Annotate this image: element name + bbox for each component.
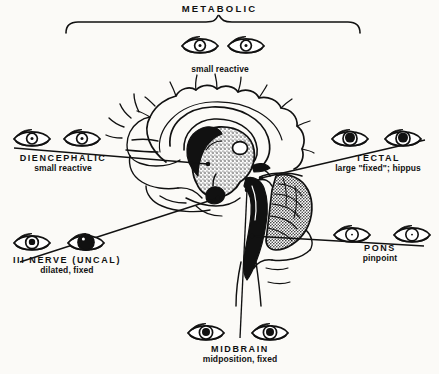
eye-pair-midbrain (188, 324, 288, 340)
label-tectal: TECTAL large "fixed"; hippus (317, 153, 439, 174)
label-diencephalic-desc: small reactive (0, 164, 126, 174)
eye-icon (14, 234, 50, 250)
eye-pair-pons (334, 226, 430, 242)
eye-pair-metabolic (182, 37, 264, 53)
label-third-nerve-desc: dilated, fixed (0, 266, 134, 276)
label-pons-desc: pinpoint (330, 254, 430, 264)
eye-icon (64, 130, 100, 146)
sagittal-brain-section (106, 74, 314, 306)
label-pons: PONS pinpoint (330, 243, 430, 264)
label-midbrain-name: MIDBRAIN (160, 344, 320, 354)
eye-icon (332, 130, 368, 146)
leader-line-third-nerve (20, 198, 218, 262)
label-metabolic: small reactive (170, 64, 270, 75)
eye-icon (14, 130, 50, 146)
eye-icon (334, 226, 370, 242)
figure-title: METABOLIC (0, 3, 439, 14)
label-midbrain: MIDBRAIN midposition, fixed (160, 344, 320, 365)
label-tectal-desc: large "fixed"; hippus (317, 164, 439, 174)
eye-pair-third-nerve (14, 234, 104, 251)
eye-pair-diencephalic (14, 130, 100, 146)
label-diencephalic-name: DIENCEPHALIC (0, 153, 126, 163)
label-third-nerve-name: III NERVE (UNCAL) (0, 255, 134, 265)
label-pons-name: PONS (330, 243, 430, 253)
eye-icon (182, 37, 218, 53)
eye-icon (385, 130, 421, 146)
label-midbrain-desc: midposition, fixed (160, 355, 320, 365)
brain-illustration (0, 0, 439, 374)
label-diencephalic: DIENCEPHALIC small reactive (0, 153, 126, 174)
eye-icon (394, 226, 430, 242)
label-metabolic-desc: small reactive (170, 65, 270, 75)
label-tectal-name: TECTAL (317, 153, 439, 163)
eye-icon (252, 324, 288, 340)
brace-icon (66, 16, 360, 34)
pupillary-response-figure: METABOLIC small reactive DIENCEPHALIC sm… (0, 0, 439, 374)
eye-pair-tectal (332, 130, 421, 146)
label-third-nerve: III NERVE (UNCAL) dilated, fixed (0, 255, 134, 276)
eye-icon (188, 324, 224, 340)
eye-icon (228, 37, 264, 53)
